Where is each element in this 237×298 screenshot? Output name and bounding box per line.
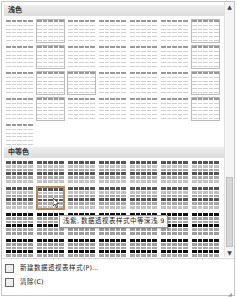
pivot-style-thumbnail[interactable] <box>191 160 220 184</box>
pivot-style-thumbnail[interactable] <box>160 19 189 43</box>
pivot-style-thumbnail[interactable] <box>160 160 189 184</box>
pivot-style-thumbnail[interactable] <box>160 97 189 121</box>
pivot-style-thumbnail[interactable] <box>129 238 158 257</box>
pivot-style-thumbnail[interactable] <box>98 186 127 210</box>
pivot-style-thumbnail[interactable] <box>5 160 34 184</box>
section-header-medium: 中等色 <box>4 147 224 158</box>
pivot-style-thumbnail[interactable] <box>98 19 127 43</box>
style-gallery: 浅色 中等色 浅紫, 数据透视表样式中等深浅 9 <box>2 2 226 257</box>
new-style-icon <box>5 264 14 273</box>
pivot-style-thumbnail[interactable] <box>36 186 65 210</box>
pivot-style-thumbnail[interactable] <box>36 238 65 257</box>
pivot-style-thumbnail[interactable] <box>129 71 158 95</box>
mouse-cursor-icon <box>53 198 60 208</box>
pivot-style-thumbnail[interactable] <box>160 71 189 95</box>
pivot-style-thumbnail[interactable] <box>67 45 96 69</box>
pivot-style-thumbnail[interactable] <box>5 238 34 257</box>
pivot-style-thumbnail[interactable] <box>191 186 220 210</box>
pivot-style-thumbnail[interactable] <box>36 160 65 184</box>
clear-menu-item[interactable]: 清除(C) <box>5 276 225 288</box>
pivot-style-thumbnail[interactable] <box>98 45 127 69</box>
pivot-style-thumbnail[interactable] <box>160 45 189 69</box>
gallery-footer: 新建数据透视表样式(P)... 清除(C) ◢ <box>2 258 234 297</box>
pivot-style-thumbnail[interactable] <box>5 97 34 121</box>
pivot-style-thumbnail[interactable] <box>129 45 158 69</box>
pivot-style-thumbnail[interactable] <box>129 160 158 184</box>
pivot-style-thumbnail[interactable] <box>36 19 65 43</box>
pivot-style-thumbnail[interactable] <box>191 71 220 95</box>
pivot-style-thumbnail[interactable] <box>129 97 158 121</box>
pivot-style-thumbnail[interactable] <box>5 186 34 210</box>
pivot-style-thumbnail[interactable] <box>67 71 96 95</box>
pivot-style-thumbnail[interactable] <box>160 238 189 257</box>
section-header-light: 浅色 <box>4 5 224 16</box>
pivot-style-thumbnail[interactable] <box>36 45 65 69</box>
pivot-style-thumbnail[interactable] <box>191 97 220 121</box>
pivot-style-thumbnail[interactable] <box>191 212 220 236</box>
pivot-style-thumbnail[interactable] <box>5 45 34 69</box>
clear-label: 清除(C) <box>20 278 44 286</box>
pivot-style-thumbnail[interactable] <box>67 186 96 210</box>
pivot-style-thumbnail[interactable] <box>5 19 34 43</box>
pivot-style-thumbnail[interactable] <box>36 97 65 121</box>
scroll-up-button[interactable]: ▲ <box>225 2 234 11</box>
new-pivot-style-label: 新建数据透视表样式(P)... <box>20 264 98 272</box>
pivot-style-thumbnail[interactable] <box>5 123 34 147</box>
pivot-style-thumbnail[interactable] <box>67 238 96 257</box>
style-tooltip: 浅紫, 数据透视表样式中等深浅 9 <box>59 215 168 228</box>
pivot-style-thumbnail[interactable] <box>67 160 96 184</box>
pivot-style-thumbnail[interactable] <box>160 186 189 210</box>
new-pivot-style-menu-item[interactable]: 新建数据透视表样式(P)... <box>5 262 225 274</box>
pivot-style-thumbnail[interactable] <box>98 71 127 95</box>
scroll-thumb[interactable] <box>226 177 233 247</box>
pivot-style-thumbnail[interactable] <box>5 212 34 236</box>
pivot-style-thumbnail[interactable] <box>36 71 65 95</box>
pivot-style-thumbnail[interactable] <box>5 71 34 95</box>
pivot-style-thumbnail[interactable] <box>191 45 220 69</box>
scroll-down-button[interactable]: ▼ <box>225 248 234 257</box>
resize-grip-icon[interactable]: ◢ <box>228 291 233 296</box>
gallery-scrollbar[interactable]: ▲ ▼ <box>224 2 234 257</box>
pivot-style-thumbnail[interactable] <box>67 97 96 121</box>
pivot-style-thumbnail[interactable] <box>98 238 127 257</box>
pivot-style-thumbnail[interactable] <box>67 19 96 43</box>
pivot-style-thumbnail[interactable] <box>129 186 158 210</box>
pivot-style-gallery-dropdown: 浅色 中等色 浅紫, 数据透视表样式中等深浅 9 ▲ ▼ 新建数据透视表样式(P… <box>1 1 235 296</box>
pivot-style-thumbnail[interactable] <box>98 160 127 184</box>
clear-icon <box>5 278 14 287</box>
pivot-style-thumbnail[interactable] <box>129 19 158 43</box>
pivot-style-thumbnail[interactable] <box>98 97 127 121</box>
pivot-style-thumbnail[interactable] <box>191 238 220 257</box>
pivot-style-thumbnail[interactable] <box>191 19 220 43</box>
